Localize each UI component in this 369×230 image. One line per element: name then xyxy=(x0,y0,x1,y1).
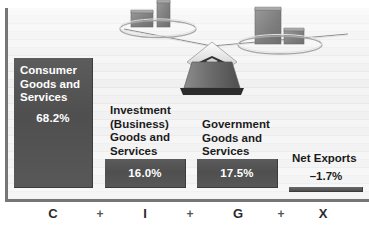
gdp-components-figure: Consumer Goods and Services 68.2% Invest… xyxy=(0,0,369,230)
bar-netexports-label: Net Exports xyxy=(292,152,368,166)
bar-government: 17.5% xyxy=(197,159,278,188)
axis-tick-c: C xyxy=(41,206,65,221)
bar-consumer-label: Consumer Goods and Services xyxy=(20,64,88,105)
axis-tick-i: I xyxy=(133,206,157,221)
bar-investment-label: Investment (Business) Goods and Services xyxy=(110,104,194,158)
bar-government-value: 17.5% xyxy=(197,167,277,179)
bar-government-label: Government Goods and Services xyxy=(202,118,290,159)
bar-consumer-value: 68.2% xyxy=(14,112,92,124)
axis-tick-x: X xyxy=(311,206,335,221)
axis-operator-3: + xyxy=(269,207,293,221)
axis-tick-g: G xyxy=(226,206,250,221)
axis-operator-2: + xyxy=(178,207,202,221)
axis-tick-labels: C + I + G + X xyxy=(0,206,369,230)
bar-netexports xyxy=(289,187,363,192)
bar-investment: 16.0% xyxy=(105,159,186,188)
bar-consumer: Consumer Goods and Services 68.2% xyxy=(14,58,93,188)
axis-operator-1: + xyxy=(88,207,112,221)
bar-investment-value: 16.0% xyxy=(105,167,185,179)
bar-netexports-value: –1.7% xyxy=(289,170,363,182)
